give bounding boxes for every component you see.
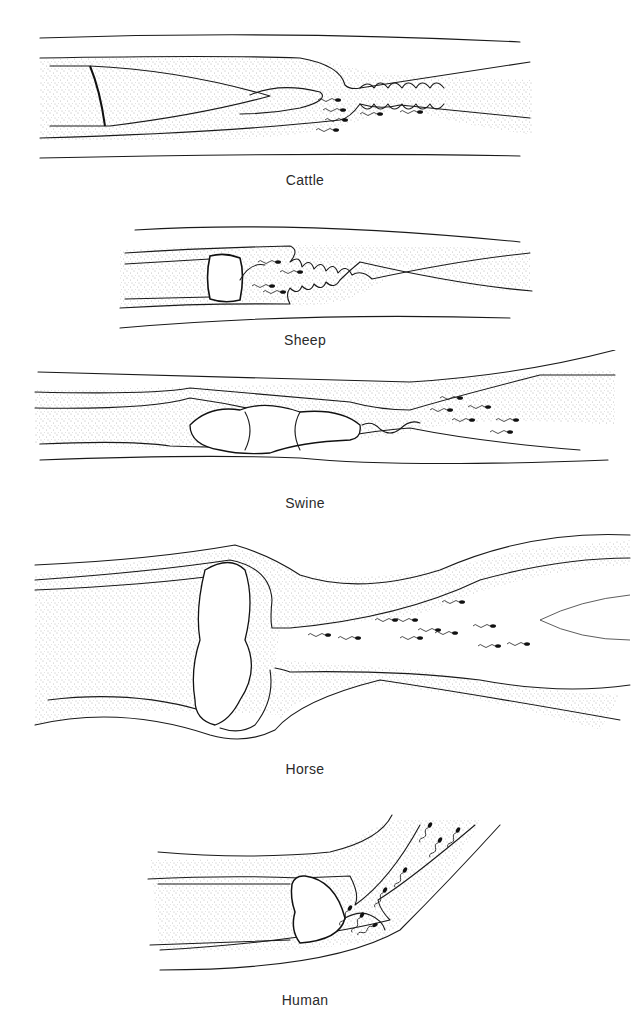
panel-sheep: Sheep [0, 200, 641, 350]
panel-cattle: Cattle [0, 0, 641, 200]
panel-label-human: Human [282, 992, 329, 1008]
human-tract-drawing [0, 780, 641, 1010]
cattle-tract-drawing [0, 0, 641, 180]
panel-label-horse: Horse [286, 761, 325, 777]
panel-label-swine: Swine [285, 495, 325, 511]
panel-swine: Swine [0, 350, 641, 520]
panel-horse: Horse [0, 520, 641, 780]
panel-human: Human [0, 780, 641, 1024]
panel-label-cattle: Cattle [286, 172, 324, 188]
sheep-tract-drawing [0, 200, 641, 350]
panel-label-sheep: Sheep [284, 332, 326, 348]
horse-tract-drawing [0, 520, 641, 780]
